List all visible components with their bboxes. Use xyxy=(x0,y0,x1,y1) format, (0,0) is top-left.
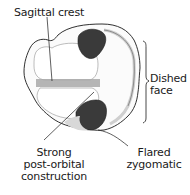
label-flared-line2: zygomatic xyxy=(124,159,184,171)
label-dished-face-line2: face xyxy=(150,85,187,97)
label-flared-zygomatic: Flared zygomatic xyxy=(124,147,184,171)
label-dished-face: Dished face xyxy=(150,73,187,97)
skull-diagram: Sagittal crest Dished face Strong post-o… xyxy=(0,0,190,195)
label-strong-line3: construction xyxy=(16,171,92,183)
sagittal-crest-band xyxy=(36,79,100,87)
label-sagittal-crest: Sagittal crest xyxy=(14,7,84,19)
dished-face-bracket xyxy=(143,41,149,123)
label-strong-post-orbital: Strong post-orbital construction xyxy=(16,147,92,183)
